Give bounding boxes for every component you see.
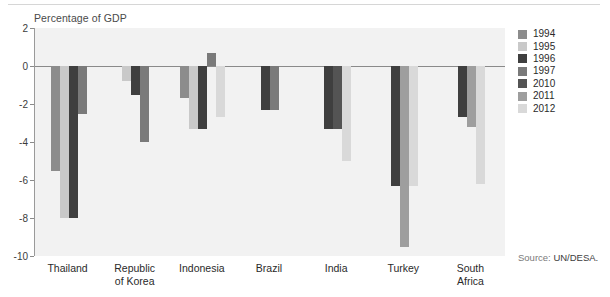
legend-item[interactable]: 1994 xyxy=(518,28,602,40)
chart-figure: Percentage of GDP 20-2-4-6-8-10 Thailand… xyxy=(0,0,610,297)
bar xyxy=(324,66,333,129)
bar xyxy=(189,66,198,129)
x-axis-category-label-line: of Korea xyxy=(85,275,185,288)
bar xyxy=(69,66,78,218)
legend-label: 2011 xyxy=(533,91,555,101)
legend-item[interactable]: 1997 xyxy=(518,65,602,77)
bar xyxy=(458,66,467,117)
legend-label: 2010 xyxy=(533,79,555,89)
bar xyxy=(51,66,60,171)
bar xyxy=(391,66,400,186)
bar xyxy=(476,66,485,184)
legend-swatch-icon xyxy=(518,92,527,101)
source-note: Source: UN/DESA. xyxy=(518,252,598,263)
source-value: UN/DESA. xyxy=(553,252,598,263)
legend-swatch-icon xyxy=(518,79,527,88)
bar xyxy=(216,66,225,117)
y-axis-tick-label: 0 xyxy=(2,61,28,72)
bar xyxy=(122,66,131,81)
bar xyxy=(342,66,351,161)
y-axis-tick-label: -6 xyxy=(2,175,28,186)
bar xyxy=(140,66,149,142)
legend-label: 1994 xyxy=(533,29,555,39)
y-axis-tick-mark xyxy=(30,256,34,257)
bar xyxy=(207,53,216,66)
legend-swatch-icon xyxy=(518,104,527,113)
top-divider xyxy=(8,4,600,5)
legend-swatch-icon xyxy=(518,30,527,39)
bar xyxy=(467,66,476,127)
plot-area xyxy=(34,28,505,256)
bar xyxy=(198,66,207,129)
bar xyxy=(78,66,87,114)
x-axis-category-label-line: South xyxy=(420,262,520,275)
legend-swatch-icon xyxy=(518,54,527,63)
y-axis-title: Percentage of GDP xyxy=(34,12,127,24)
bar xyxy=(409,66,418,186)
bar xyxy=(131,66,140,95)
legend-item[interactable]: 2012 xyxy=(518,102,602,114)
bar xyxy=(270,66,279,110)
legend: 1994199519961997201020112012 xyxy=(518,28,602,115)
bar xyxy=(400,66,409,247)
bar xyxy=(180,66,189,98)
legend-label: 2012 xyxy=(533,104,555,114)
legend-item[interactable]: 1995 xyxy=(518,40,602,52)
legend-swatch-icon xyxy=(518,42,527,51)
bar xyxy=(261,66,270,110)
x-axis-category-label: SouthAfrica xyxy=(420,262,520,287)
legend-label: 1995 xyxy=(533,42,555,52)
y-axis-tick-label: -10 xyxy=(2,251,28,262)
source-label: Source: xyxy=(518,252,551,263)
legend-item[interactable]: 2011 xyxy=(518,90,602,102)
y-axis-tick-label: 2 xyxy=(2,23,28,34)
legend-label: 1996 xyxy=(533,54,555,64)
y-axis-tick-label: -2 xyxy=(2,99,28,110)
bar xyxy=(60,66,69,218)
bar xyxy=(333,66,342,129)
legend-item[interactable]: 1996 xyxy=(518,53,602,65)
legend-item[interactable]: 2010 xyxy=(518,78,602,90)
legend-swatch-icon xyxy=(518,67,527,76)
legend-label: 1997 xyxy=(533,66,555,76)
y-axis-tick-label: -4 xyxy=(2,137,28,148)
y-axis-tick-label: -8 xyxy=(2,213,28,224)
x-axis-category-label-line: Africa xyxy=(420,275,520,288)
